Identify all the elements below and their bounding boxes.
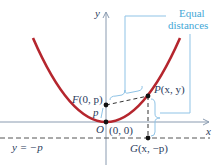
y-axis-label: y (94, 7, 100, 19)
focus-point (104, 103, 109, 108)
origin-letter: O (96, 123, 104, 135)
point-label: P(x, y) (153, 83, 185, 96)
focus-label: F(0, p) (71, 93, 103, 106)
directrix-label: y = −p (11, 141, 43, 153)
g-point (146, 136, 151, 141)
segment-p-label: p (92, 106, 99, 118)
parabola-diagram: y x F(0, p) p P(x, y) O (0, 0) G(x, −p) … (0, 0, 223, 165)
annotation-line-1: Equal (179, 7, 205, 19)
x-axis-label: x (205, 125, 211, 137)
p-segment-mark (101, 108, 103, 118)
annotation-line-2: distances (168, 19, 208, 31)
origin-point (104, 120, 109, 125)
p-point (146, 94, 151, 99)
origin-coords: (0, 0) (109, 124, 133, 137)
g-label: G(x, −p) (130, 142, 168, 155)
